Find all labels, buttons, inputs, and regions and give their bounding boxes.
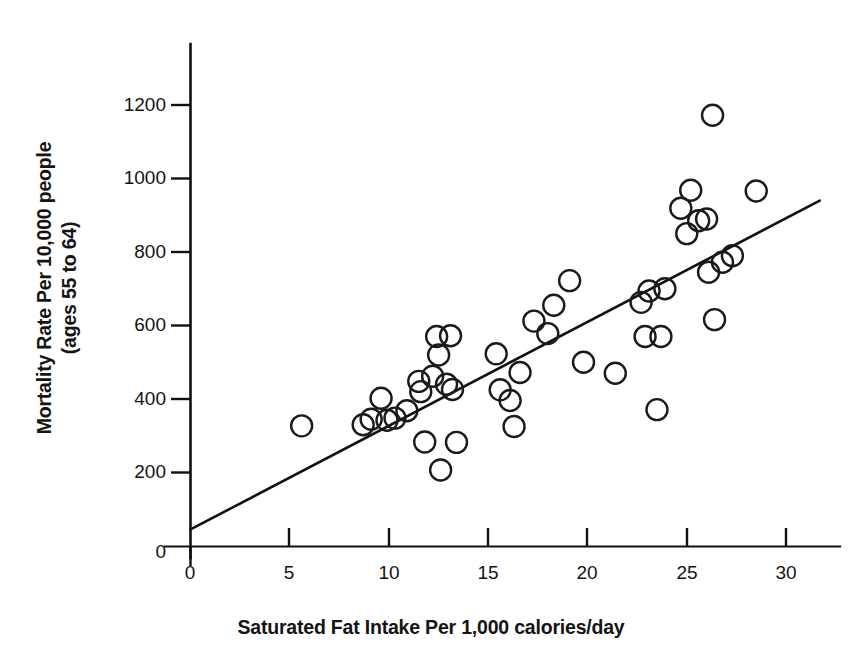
data-point (646, 399, 667, 420)
data-point (680, 180, 701, 201)
data-point (537, 323, 558, 344)
data-point (702, 105, 723, 126)
data-points-group (291, 105, 767, 481)
data-point (440, 325, 461, 346)
data-point (291, 415, 312, 436)
data-point (504, 416, 525, 437)
data-point (510, 362, 531, 383)
axis-lines (165, 44, 840, 558)
data-point (446, 432, 467, 453)
data-point (704, 309, 725, 330)
data-point (573, 352, 594, 373)
data-point (486, 343, 507, 364)
data-point (543, 295, 564, 316)
data-point (430, 459, 451, 480)
data-point (414, 432, 435, 453)
data-point (650, 326, 671, 347)
data-point (523, 311, 544, 332)
data-point (396, 400, 417, 421)
data-point (605, 363, 626, 384)
scatter-chart-figure: Mortality Rate Per 10,000 people (ages 5… (0, 0, 862, 665)
data-point (676, 223, 697, 244)
plot-area (0, 0, 862, 665)
data-point (698, 262, 719, 283)
data-point (371, 388, 392, 409)
y-axis-ticks (171, 105, 190, 473)
trend-line (191, 201, 820, 530)
data-point (559, 270, 580, 291)
data-point (746, 181, 767, 202)
